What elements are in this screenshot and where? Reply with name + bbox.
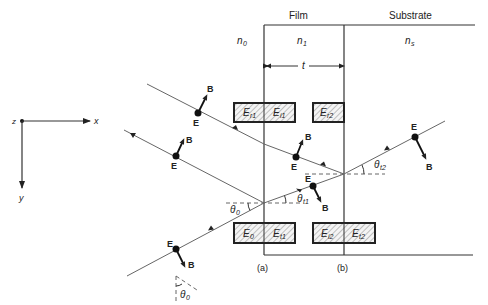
field-box-top-a: E r1 E i1 <box>234 103 295 122</box>
svg-text:i2: i2 <box>328 233 334 240</box>
svg-text:0: 0 <box>243 40 247 47</box>
svg-text:E: E <box>273 228 280 239</box>
angle-theta0-bottom: θ 0 <box>180 289 190 301</box>
film-boundaries <box>264 25 475 255</box>
thin-film-diagram: Film Substrate n 0 n 1 n s t z x y <box>0 0 488 305</box>
field-vector-incident: E B <box>167 239 195 270</box>
substrate-header: Substrate <box>389 10 432 21</box>
svg-text:1: 1 <box>303 40 307 47</box>
field-box-bottom-b: E i2 E t2 <box>313 223 375 243</box>
field-vector-film-transmitted: E B <box>305 174 329 213</box>
medium-label-n0: n 0 <box>237 35 247 47</box>
medium-label-ns: n s <box>405 35 415 47</box>
svg-text:B: B <box>186 135 193 145</box>
svg-text:t: t <box>302 60 306 71</box>
svg-text:E: E <box>243 228 250 239</box>
coordinate-axes: z x y <box>11 116 99 203</box>
medium-label-n1: n 1 <box>297 35 307 47</box>
svg-text:t2: t2 <box>380 164 386 171</box>
svg-text:0: 0 <box>250 233 254 240</box>
angle-theta0: θ 0 <box>230 204 240 216</box>
svg-text:B: B <box>426 162 433 172</box>
svg-text:E: E <box>352 228 359 239</box>
angle-theta-t1: θ t1 <box>297 193 309 205</box>
svg-text:0: 0 <box>186 294 190 301</box>
interface-label-a: (a) <box>257 263 268 273</box>
svg-text:t1: t1 <box>303 198 309 205</box>
interface-label-b: (b) <box>337 263 348 273</box>
svg-text:E: E <box>305 174 311 184</box>
field-vector-reflected-top: E B <box>193 84 214 128</box>
field-vector-film-reflected: E B <box>291 132 312 172</box>
svg-text:E: E <box>167 239 173 249</box>
svg-text:s: s <box>411 40 415 47</box>
field-vector-reflected-a: E B <box>171 135 193 171</box>
field-box-bottom-a: E 0 E t1 <box>234 223 295 243</box>
axis-y-label: y <box>18 193 24 203</box>
svg-text:t2: t2 <box>359 233 365 240</box>
svg-text:E: E <box>193 118 199 128</box>
svg-text:E: E <box>171 161 177 171</box>
svg-text:E: E <box>273 107 280 118</box>
svg-text:B: B <box>188 260 195 270</box>
svg-text:i1: i1 <box>280 112 286 119</box>
field-box-top-b: E r2 <box>313 103 344 122</box>
svg-text:E: E <box>321 228 328 239</box>
svg-text:E: E <box>291 162 297 172</box>
axis-z-label: z <box>11 117 16 126</box>
film-header: Film <box>289 10 308 21</box>
svg-text:E: E <box>243 107 250 118</box>
svg-text:B: B <box>207 84 214 94</box>
svg-text:r2: r2 <box>327 112 333 119</box>
angle-theta-t2: θ t2 <box>374 159 386 171</box>
svg-text:0: 0 <box>236 209 240 216</box>
svg-text:r1: r1 <box>250 112 256 119</box>
axis-x-label: x <box>93 116 99 126</box>
svg-text:t1: t1 <box>280 233 286 240</box>
svg-text:B: B <box>322 203 329 213</box>
svg-text:B: B <box>305 132 312 142</box>
svg-text:E: E <box>411 122 417 132</box>
svg-text:E: E <box>320 107 327 118</box>
thickness-dimension: t <box>266 60 342 71</box>
